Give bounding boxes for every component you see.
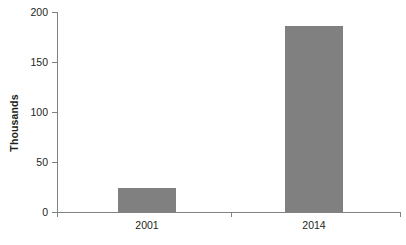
y-axis-tick-label-0: 0 [12,207,52,218]
x-axis-tick-start [57,212,58,217]
y-axis-tick-label-100: 100 [12,107,52,118]
bar-2001 [118,188,176,212]
y-axis-tick-50 [52,162,57,163]
y-axis-tick-label-50: 50 [12,157,52,168]
bar-2014 [285,26,343,212]
x-axis-tick-label-2001: 2001 [107,220,187,231]
y-axis-tick-200 [52,12,57,13]
x-axis-tick-end [400,212,401,217]
y-axis-line [57,12,58,213]
x-axis-tick-middle [231,212,232,217]
y-axis-tick-150 [52,62,57,63]
x-axis-tick-label-2014: 2014 [274,220,354,231]
y-axis-title-label: Thousands [8,94,20,151]
x-axis-line [57,212,401,213]
bar-chart: Thousands 0 50 100 150 200 2001 2014 [0,0,406,245]
y-axis-tick-label-200: 200 [12,7,52,18]
y-axis-tick-label-150: 150 [12,57,52,68]
y-axis-tick-100 [52,112,57,113]
